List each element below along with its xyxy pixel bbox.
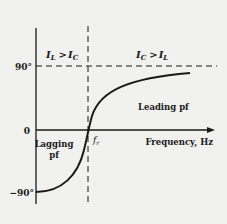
y-tick-neg90: −90° xyxy=(9,188,34,198)
phase-angle-diagram: 90° 0 −90° IL>IC IC>IL Leading pf Laggin… xyxy=(0,0,227,224)
leading-pf-label: Leading pf xyxy=(138,102,190,112)
lagging-pf-label: pf xyxy=(49,150,60,160)
svg-text:IC>IL: IC>IL xyxy=(135,49,168,62)
phase-curve xyxy=(36,73,190,192)
right-condition-label: IC>IL xyxy=(135,49,168,62)
left-condition-label: IL>IC xyxy=(45,49,79,62)
y-tick-0: 0 xyxy=(24,126,30,136)
lagging-label: Lagging xyxy=(35,139,74,149)
x-axis-arrow-icon xyxy=(207,127,215,133)
x-axis-label: Frequency, Hz xyxy=(145,137,213,148)
resonance-frequency-label: fr xyxy=(92,135,100,146)
svg-text:IL>IC: IL>IC xyxy=(45,49,79,62)
y-tick-90: 90° xyxy=(15,62,32,72)
